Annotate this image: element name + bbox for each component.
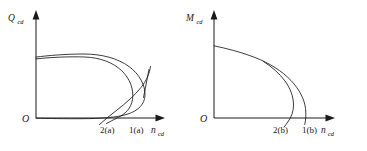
panel-a-y-axis-label: Q cd — [8, 13, 24, 25]
panel-a-y-axis-label-main: Q — [8, 13, 15, 23]
panel-b-origin-label: O — [200, 113, 207, 124]
panel-a-y-axis — [33, 10, 40, 118]
panel-b-y-axis-label-main: M — [185, 13, 195, 23]
panel-a-y-axis-label-sub: cd — [18, 18, 25, 25]
panel-b-y-axis-label-sub: cd — [197, 18, 204, 25]
panel-b: M cd n cd O 2(b) 1(b) — [185, 10, 335, 137]
panel-b-curve-inner — [264, 62, 294, 128]
panel-b-tick-label-2b: 2(b) — [273, 125, 288, 135]
panel-b-x-axis-label: n cd — [321, 125, 335, 137]
panel-a-x-axis-label-main: n — [151, 125, 156, 135]
panel-b-x-axis — [214, 115, 335, 122]
panel-b-x-axis-label-sub: cd — [328, 130, 335, 137]
panel-a-tick-label-2a: 2(a) — [100, 125, 115, 135]
panel-a-tick-label-1a: 1(a) — [129, 125, 144, 135]
panel-a-curve-rising — [100, 67, 151, 125]
panel-a-origin-label: O — [22, 113, 29, 124]
panel-a-x-axis-label: n cd — [151, 125, 165, 137]
panel-b-x-axis-label-main: n — [321, 125, 326, 135]
panel-b-tick-label-1b: 1(b) — [302, 125, 317, 135]
panel-a-curve-middle — [36, 57, 133, 124]
figure-canvas: Q cd n cd O 2(a) 1(a) — [0, 0, 367, 151]
panel-a-x-axis-label-sub: cd — [158, 130, 165, 137]
panel-b-y-axis — [211, 10, 218, 118]
panel-b-y-axis-label: M cd — [185, 13, 203, 25]
panel-a: Q cd n cd O 2(a) 1(a) — [8, 10, 165, 137]
